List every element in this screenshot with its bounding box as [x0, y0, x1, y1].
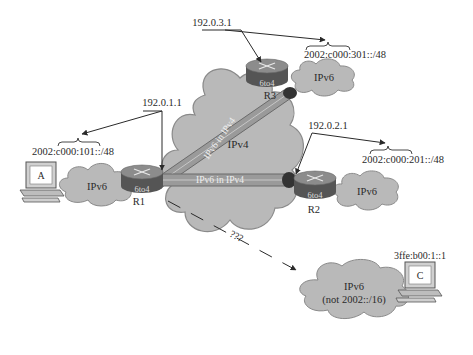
ipv6-site-r3-label: IPv6 — [314, 72, 334, 83]
ipv6-native-label: IPv6 — [344, 281, 364, 292]
host-c-label: C — [417, 270, 424, 281]
router-r1-type: 6to4 — [134, 184, 150, 194]
router-r2-type: 6to4 — [307, 190, 323, 200]
r1-prefix-label: 2002:c000:101::/48 — [32, 146, 114, 157]
host-c-address: 3ffe:b00:1::1 — [394, 250, 446, 261]
r1-prefix-brace — [58, 138, 100, 146]
router-r3-type: 6to4 — [259, 78, 275, 88]
ipv6-site-a-cloud: IPv6 — [59, 163, 131, 206]
ipv6-native-sublabel: (not 2002::/16) — [322, 294, 386, 306]
ipv6-site-r2-label: IPv6 — [357, 186, 377, 197]
tunnel-endpoint-r2 — [282, 172, 296, 188]
r2-prefix-label: 2002:c000:201::/48 — [362, 154, 444, 165]
r3-prefix-label: 2002:c000:301::/48 — [304, 49, 386, 60]
router-r1[interactable]: 6to4 R1 — [121, 165, 163, 207]
ipv6-site-a-label: IPv6 — [87, 181, 107, 192]
tunnel-endpoint-r3 — [283, 87, 297, 99]
r2-ipv4-label: 192.0.2.1 — [308, 120, 347, 131]
tunnel-r1-r2-label: IPv6 in IPv4 — [196, 175, 244, 185]
r2-prefix-brace — [370, 146, 412, 154]
ipv6-site-r2-cloud: IPv6 — [333, 171, 398, 210]
host-a-computer[interactable]: A — [20, 162, 64, 202]
host-a-label: A — [37, 170, 45, 181]
ipv6-native-cloud: IPv6 (not 2002::/16) — [300, 259, 409, 318]
ipv6-site-r3-cloud: IPv6 — [291, 59, 354, 96]
tunnel-r1-r2: IPv6 in IPv4 — [155, 174, 287, 186]
r1-ipv4-label: 192.0.1.1 — [142, 97, 181, 108]
router-r1-name: R1 — [133, 196, 145, 207]
6to4-network-diagram: IPv4 IPv6 IPv6 IPv6 IPv6 (not 2002::/16)… — [0, 0, 473, 355]
router-r2-name: R2 — [308, 204, 320, 215]
router-r2[interactable]: 6to4 R2 — [294, 171, 336, 215]
router-r3-name: R3 — [264, 90, 276, 101]
r3-ipv4-label: 192.0.3.1 — [192, 17, 231, 28]
